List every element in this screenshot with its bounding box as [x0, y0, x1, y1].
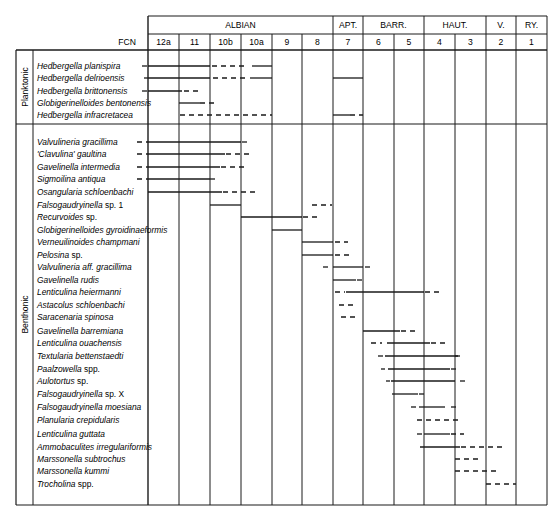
zone-label: 6	[376, 37, 381, 47]
taxon-label: Gavelinella barremiana	[37, 326, 123, 336]
range-lines	[137, 66, 516, 484]
taxon-label: Hedbergella brittonensis	[37, 86, 128, 96]
taxon-label: Hedbergella planispira	[37, 61, 121, 71]
taxon-label: Recurvoides sp.	[37, 212, 97, 222]
taxon-label: Planularia crepidularis	[37, 415, 120, 425]
taxon-label: Falsogaudryinella sp. X	[37, 389, 124, 399]
group-label-planktonic: Planktonic	[20, 66, 30, 106]
taxon-label: Saracenaria spinosa	[37, 312, 114, 322]
taxon-label: Osangularia schloenbachi	[37, 187, 135, 197]
range-chart: ALBIANAPT.BARR.HAUT.V.RY.12a1110b10a9876…	[0, 0, 558, 518]
taxon-label: Gavelinella intermedia	[37, 162, 120, 172]
taxon-label: Globigerinelloides bentonensis	[37, 98, 152, 108]
taxon-label: Hedbergella delrioensis	[37, 73, 125, 83]
taxon-label: Globigerinelloides gyroidinaeformis	[37, 225, 168, 235]
stage-label: RY.	[525, 20, 538, 30]
zone-label: 9	[285, 37, 290, 47]
taxon-label: 'Clavulina' gaultina	[37, 149, 107, 159]
fcn-label: FCN	[118, 37, 136, 47]
taxon-label: Paalzowella spp.	[37, 364, 100, 374]
taxon-label: Lenticulina guttata	[37, 429, 105, 439]
taxon-label: Verneuilinoides champmani	[37, 237, 141, 247]
taxon-label: Sigmoilina antiqua	[37, 174, 106, 184]
zone-label: 3	[468, 37, 473, 47]
taxon-label: Gavelinella rudis	[37, 275, 100, 285]
zone-label: 12a	[156, 37, 171, 47]
zone-label: 11	[190, 37, 199, 47]
zone-label: 8	[315, 37, 320, 47]
zone-label: 1	[529, 37, 534, 47]
taxon-label: Valvulineria aff. gracillima	[37, 262, 132, 272]
taxon-label: Pelosina sp.	[37, 250, 83, 260]
taxon-label: Falsogaudryinella moesiana	[37, 402, 142, 412]
zone-label: 4	[437, 37, 442, 47]
stage-label: HAUT.	[443, 20, 468, 30]
stage-label: V.	[497, 20, 504, 30]
stage-label: ALBIAN	[225, 20, 256, 30]
zone-label: 7	[346, 37, 351, 47]
taxon-label: Valvulineria gracillima	[37, 137, 118, 147]
zone-label: 5	[407, 37, 412, 47]
taxon-label: Ammobaculites irregulariformis	[36, 442, 153, 452]
taxon-label: Lenticulina ouachensis	[37, 338, 123, 348]
taxon-label: Marssonella subtrochus	[37, 454, 126, 464]
taxon-label: Hedbergella infracretacea	[37, 110, 133, 120]
taxon-label: Astacolus schloenbachi	[36, 300, 126, 310]
group-labels: PlanktonicBenthonic	[20, 66, 30, 333]
taxon-label: Falsogaudryinella sp. 1	[37, 200, 123, 210]
taxon-label: Lenticulina heiermanni	[37, 287, 122, 297]
zone-label: 2	[499, 37, 504, 47]
zone-label: 10b	[218, 37, 233, 47]
stage-label: BARR.	[380, 20, 406, 30]
taxon-label: Marssonella kummi	[37, 466, 110, 476]
taxon-label: Textularia bettenstaedti	[37, 351, 124, 361]
zone-label: 10a	[249, 37, 264, 47]
stage-label: APT.	[339, 20, 357, 30]
group-label-benthonic: Benthonic	[20, 295, 30, 334]
taxon-label: Trocholina spp.	[37, 479, 94, 489]
taxon-label: Aulotortus sp.	[36, 376, 88, 386]
